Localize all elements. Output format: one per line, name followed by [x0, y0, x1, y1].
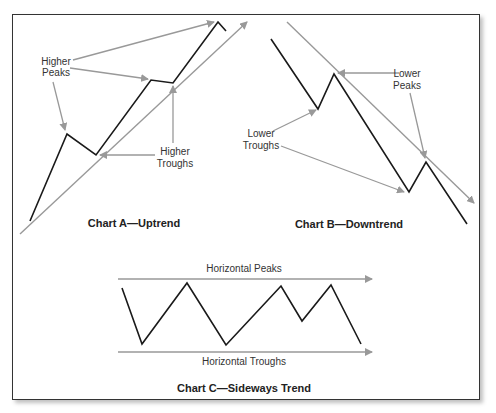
higher-troughs-label-1: Higher	[160, 146, 190, 157]
chart-c-title: Chart C—Sideways Trend	[177, 382, 311, 394]
lower-troughs-label-2: Troughs	[243, 140, 279, 151]
higher-peaks-label-1: Higher	[41, 56, 71, 67]
lower-troughs-label-1: Lower	[247, 128, 275, 139]
trough-arrow-1	[273, 110, 316, 131]
downtrend-price-line	[271, 39, 467, 224]
chart-c-sideways: Horizontal Peaks Horizontal Troughs Char…	[118, 263, 372, 394]
peak-arrow-1	[53, 82, 65, 130]
trend-diagram: Higher Peaks Higher Troughs Chart A—Uptr…	[0, 0, 496, 413]
sideways-price-line	[122, 283, 361, 345]
chart-a-uptrend: Higher Peaks Higher Troughs Chart A—Uptr…	[20, 22, 247, 234]
chart-b-title: Chart B—Downtrend	[295, 218, 403, 230]
lower-peaks-label-2: Peaks	[393, 80, 421, 91]
trough-arrow-2	[281, 146, 404, 192]
peak-arrow-3	[73, 22, 214, 60]
uptrend-line	[20, 22, 247, 234]
horizontal-troughs-label: Horizontal Troughs	[202, 356, 286, 367]
higher-peaks-label-2: Peaks	[42, 67, 70, 78]
chart-b-downtrend: Lower Peaks Lower Troughs Chart B—Downtr…	[243, 22, 474, 230]
higher-troughs-label-2: Troughs	[157, 158, 193, 169]
peak-arrow-2	[70, 68, 148, 79]
chart-a-title: Chart A—Uptrend	[88, 217, 180, 229]
uptrend-price-line	[30, 22, 226, 221]
lower-peaks-label-1: Lower	[393, 68, 421, 79]
horizontal-peaks-label: Horizontal Peaks	[206, 263, 282, 274]
downtrend-line	[287, 22, 474, 203]
